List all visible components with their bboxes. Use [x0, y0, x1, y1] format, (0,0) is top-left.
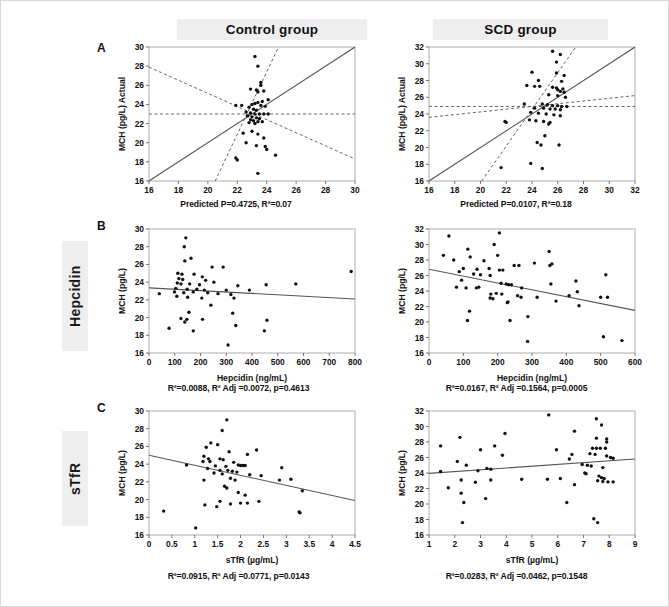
data-point — [464, 286, 467, 289]
data-point — [231, 470, 234, 473]
data-point — [255, 448, 258, 451]
y-tick-label: 28 — [415, 76, 425, 86]
data-point — [489, 478, 492, 481]
y-tick-label: 32 — [415, 406, 425, 416]
data-point — [455, 285, 458, 288]
data-point — [605, 437, 608, 440]
data-point — [599, 296, 602, 299]
x-tick-label: 800 — [348, 357, 362, 367]
data-point — [216, 443, 219, 446]
data-point — [520, 286, 523, 289]
plot-area-c-scd: 123456789161820222426283032MCH (pg/L)sTf… — [393, 405, 643, 565]
data-point — [568, 457, 571, 460]
data-point — [262, 136, 265, 139]
data-point — [600, 423, 603, 426]
x-tick-label: 600 — [297, 357, 311, 367]
data-point — [592, 517, 595, 520]
x-axis-title: Hepcidin (ng/mL) — [217, 373, 287, 383]
data-point — [551, 104, 554, 107]
data-point — [489, 292, 492, 295]
y-tick-label: 18 — [135, 330, 145, 340]
y-tick-label: 26 — [135, 441, 145, 451]
data-point — [257, 500, 260, 503]
x-tick-label: 2.5 — [258, 539, 270, 549]
data-point — [538, 85, 541, 88]
data-point — [243, 464, 246, 467]
y-tick-label: 20 — [135, 138, 145, 148]
data-point — [496, 254, 499, 257]
plot-frame — [429, 411, 635, 535]
y-tick-label: 20 — [415, 143, 425, 153]
x-tick-label: 3.5 — [303, 539, 315, 549]
x-tick-label: 3 — [284, 539, 289, 549]
data-point — [555, 71, 558, 74]
data-point — [240, 104, 243, 107]
data-point — [209, 303, 212, 306]
y-tick-label: 24 — [415, 468, 425, 478]
y-axis-title: MCH (pg/L) Actual — [117, 77, 127, 151]
data-point — [218, 500, 221, 503]
data-point — [253, 102, 256, 105]
data-point — [559, 53, 562, 56]
data-point — [577, 304, 580, 307]
data-point — [590, 464, 593, 467]
data-point — [570, 453, 573, 456]
data-point — [529, 162, 532, 165]
data-point — [442, 254, 445, 257]
data-point — [574, 279, 577, 282]
data-point — [554, 299, 557, 302]
data-point — [595, 417, 598, 420]
data-point — [550, 262, 553, 265]
x-tick-label: 24 — [262, 185, 272, 195]
x-tick-label: 6 — [555, 539, 560, 549]
data-point — [202, 478, 205, 481]
data-point — [259, 84, 262, 87]
y-tick-label: 20 — [135, 313, 145, 323]
data-point — [256, 90, 259, 93]
data-point — [255, 116, 258, 119]
data-point — [461, 521, 464, 524]
data-point — [561, 87, 564, 90]
data-point — [181, 278, 184, 281]
data-point — [596, 521, 599, 524]
data-point — [221, 429, 224, 432]
data-point — [602, 335, 605, 338]
data-point — [533, 261, 536, 264]
data-point — [229, 477, 232, 480]
data-point — [477, 285, 480, 288]
data-point — [519, 296, 522, 299]
data-point — [501, 453, 504, 456]
data-point — [482, 259, 485, 262]
data-point — [548, 107, 551, 110]
data-point — [264, 105, 267, 108]
column-header-scd: SCD group — [433, 19, 608, 40]
data-point — [469, 255, 472, 258]
data-point — [180, 272, 183, 275]
data-point — [487, 267, 490, 270]
data-point — [533, 85, 536, 88]
data-point — [466, 247, 469, 250]
data-point — [162, 509, 165, 512]
scatter-plot-c-control: 00.511.522.533.544.51618202224262830MCH … — [113, 405, 363, 565]
data-point — [586, 464, 589, 467]
x-tick-label: 600 — [628, 357, 642, 367]
data-point — [243, 493, 246, 496]
x-tick-label: 28 — [321, 185, 331, 195]
data-point — [499, 282, 502, 285]
data-point — [526, 315, 529, 318]
data-point — [198, 283, 201, 286]
data-point — [447, 486, 450, 489]
data-point — [611, 480, 614, 483]
data-point — [210, 265, 213, 268]
y-axis-title: MCH (pg/L) — [397, 450, 407, 496]
data-point — [498, 231, 501, 234]
data-point — [466, 319, 469, 322]
data-point — [249, 118, 252, 121]
data-point — [596, 479, 599, 482]
data-point — [280, 466, 283, 469]
data-point — [349, 270, 352, 273]
data-point — [218, 457, 221, 460]
data-point — [264, 283, 267, 286]
data-point — [203, 288, 206, 291]
data-point — [248, 473, 251, 476]
